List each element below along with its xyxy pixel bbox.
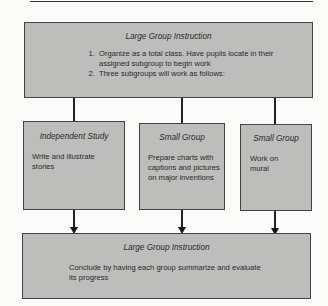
subgroup-box-independent-study: Independent Study Write and illustrate s… [23,121,125,210]
connector-line-3 [274,98,276,124]
subgroup-3-title: Small Group [241,134,311,143]
arrow-line-2 [181,210,183,228]
connector-line-2 [181,98,183,123]
connector-line-1 [73,98,75,121]
bottom-box-large-group-instruction: Large Group Instruction Conclude by havi… [22,233,311,299]
subgroup-box-small-group-charts: Small Group Prepare charts with captions… [139,123,225,210]
subgroup-2-title: Small Group [140,133,224,142]
subgroup-box-small-group-mural: Small Group Work on mural [240,124,312,211]
subgroup-2-text: Prepare charts with captions and picture… [148,153,221,183]
top-rule [30,0,313,2]
step-1: Organize as a total class. Have pupils l… [97,49,302,69]
bottom-box-title: Large Group Instruction [23,243,310,252]
arrow-line-1 [73,210,75,228]
arrow-line-3 [274,211,276,229]
subgroup-1-text: Write and illustrate stories [32,152,118,172]
bottom-box-text: Conclude by having each group summarize … [69,263,269,283]
top-box-steps: Organize as a total class. Have pupils l… [83,49,302,79]
subgroup-3-text: Work on mural [250,154,290,174]
subgroup-1-title: Independent Study [24,132,124,141]
top-box-title: Large Group Instruction [25,32,312,41]
step-2: Three subgroups will work as follows: [97,69,302,79]
top-box-large-group-instruction: Large Group Instruction Organize as a to… [24,22,313,98]
